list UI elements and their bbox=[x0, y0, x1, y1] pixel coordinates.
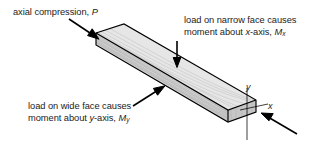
moment-x-subscript: x bbox=[282, 31, 285, 38]
axial-force-symbol: P bbox=[92, 7, 98, 17]
moment-y-subscript: y bbox=[126, 117, 129, 124]
axial-compression-text: axial compression, bbox=[13, 7, 92, 17]
narrow-face-moment-label: load on narrow face causes moment about … bbox=[184, 14, 296, 41]
wide-face-moment-label: load on wide face causes moment about y-… bbox=[28, 100, 131, 127]
narrow-face-line2-pre: moment about bbox=[184, 27, 245, 37]
x-axis-label: x bbox=[268, 101, 273, 111]
axial-compression-label: axial compression, P bbox=[13, 6, 98, 18]
axial-compression-arrow bbox=[69, 19, 99, 39]
y-axis-label: y bbox=[246, 82, 251, 92]
narrow-face-line1: load on narrow face causes bbox=[184, 15, 296, 25]
wide-face-line1: load on wide face causes bbox=[28, 101, 131, 111]
wide-face-line2-pre: moment about bbox=[28, 113, 89, 123]
moment-x-symbol: M bbox=[274, 27, 282, 37]
narrow-face-line2-mid: -axis, bbox=[250, 27, 274, 37]
wide-face-line2-mid: -axis, bbox=[94, 113, 118, 123]
moment-y-symbol: M bbox=[118, 113, 126, 123]
wide-face-load-arrow bbox=[133, 86, 165, 106]
end-axial-arrow bbox=[261, 113, 297, 134]
